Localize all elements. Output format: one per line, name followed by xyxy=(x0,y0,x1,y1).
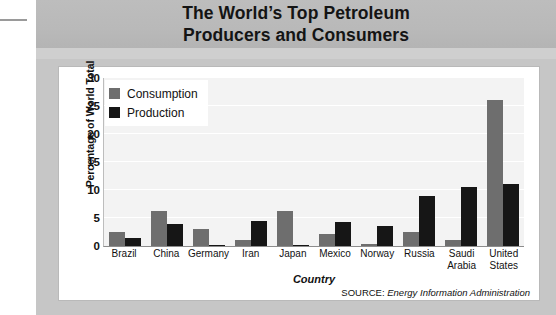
bar-group xyxy=(277,78,309,246)
page: The World’s Top Petroleum Producers and … xyxy=(0,0,556,315)
y-tick-label: 10 xyxy=(72,184,100,196)
bar-chart: Percentage of World Total 051015202530 C… xyxy=(58,66,540,315)
x-tick-label: Japan xyxy=(272,248,314,271)
source-name: Energy Information Administration xyxy=(387,287,530,298)
y-tick-label: 15 xyxy=(72,156,100,168)
bar-consumption xyxy=(277,211,293,246)
bar-production xyxy=(335,222,351,246)
y-axis-ticks: 051015202530 xyxy=(72,66,100,256)
x-tick-label: Norway xyxy=(356,248,398,271)
x-axis-ticks: BrazilChinaGermanyIranJapanMexicoNorwayR… xyxy=(103,248,525,271)
bar-consumption xyxy=(445,240,461,246)
bar-consumption xyxy=(487,100,503,246)
bar-group xyxy=(445,78,477,246)
legend-item: Consumption xyxy=(109,84,198,103)
x-tick-label: China xyxy=(145,248,187,271)
legend-label: Consumption xyxy=(127,87,198,101)
bar-consumption xyxy=(319,234,335,246)
bar-group xyxy=(361,78,393,246)
bar-consumption xyxy=(109,232,125,246)
bar-group xyxy=(403,78,435,246)
margin-rule xyxy=(0,19,27,21)
bar-group xyxy=(319,78,351,246)
bar-consumption xyxy=(151,211,167,246)
figure-title: The World’s Top Petroleum Producers and … xyxy=(36,2,556,46)
x-tick-label: Iran xyxy=(230,248,272,271)
bar-production xyxy=(209,245,225,246)
y-tick-label: 25 xyxy=(72,100,100,112)
figure-title-line2: Producers and Consumers xyxy=(36,24,556,46)
legend-label: Production xyxy=(127,106,184,120)
title-band-shadow xyxy=(36,48,556,59)
x-tick-label: Germany xyxy=(187,248,229,271)
legend-swatch-icon xyxy=(109,107,120,118)
bar-production xyxy=(461,187,477,246)
y-tick-label: 20 xyxy=(72,128,100,140)
bar-production xyxy=(503,184,519,246)
bar-production xyxy=(419,196,435,246)
bar-consumption xyxy=(361,244,377,246)
bar-production xyxy=(251,221,267,246)
x-tick-label: Mexico xyxy=(314,248,356,271)
x-tick-label: Russia xyxy=(398,248,440,271)
legend-swatch-icon xyxy=(109,88,120,99)
bar-consumption xyxy=(403,232,419,246)
y-tick-label: 0 xyxy=(72,240,100,252)
bar-consumption xyxy=(235,240,251,246)
y-tick-label: 5 xyxy=(72,212,100,224)
bar-production xyxy=(377,226,393,246)
figure-title-line1: The World’s Top Petroleum xyxy=(182,3,410,23)
x-tick-label: United States xyxy=(483,248,525,271)
bar-group xyxy=(487,78,519,246)
chart-legend: ConsumptionProduction xyxy=(105,80,208,126)
bar-production xyxy=(125,238,141,246)
legend-item: Production xyxy=(109,103,198,122)
x-tick-label: Saudi Arabia xyxy=(441,248,483,271)
y-tick-label: 30 xyxy=(72,72,100,84)
source-prefix: SOURCE: xyxy=(341,287,384,298)
bar-group xyxy=(235,78,267,246)
x-tick-label: Brazil xyxy=(103,248,145,271)
bar-production xyxy=(293,245,309,246)
source-note: SOURCE: Energy Information Administratio… xyxy=(58,287,530,298)
left-margin xyxy=(0,0,36,315)
bar-production xyxy=(167,224,183,246)
bar-consumption xyxy=(193,229,209,246)
x-axis-label: Country xyxy=(103,273,525,285)
